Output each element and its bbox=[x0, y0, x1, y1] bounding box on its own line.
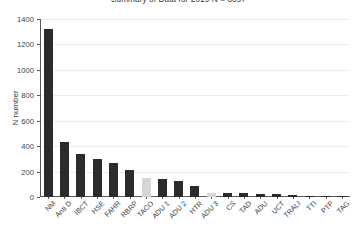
x-tick-label: CS bbox=[224, 199, 237, 212]
bar-htr[interactable] bbox=[190, 186, 199, 197]
bar-slot[interactable] bbox=[154, 19, 170, 197]
bar-anti-d[interactable] bbox=[60, 142, 69, 197]
bar-slot[interactable] bbox=[334, 19, 350, 197]
bar-adu-1[interactable] bbox=[158, 179, 167, 197]
x-tick-label: IBCT bbox=[72, 199, 90, 217]
y-tick-label: 200 bbox=[21, 167, 34, 176]
y-tick-label: 800 bbox=[21, 91, 34, 100]
bar-slot[interactable] bbox=[301, 19, 317, 197]
bar-slot[interactable] bbox=[122, 19, 138, 197]
x-tick-label: TTI bbox=[305, 199, 319, 213]
y-tick-label: 0 bbox=[30, 193, 34, 202]
bar-slot[interactable] bbox=[40, 19, 56, 197]
chart-title: Summary of Data for 2019 N = 3397 bbox=[0, 0, 357, 4]
x-tick-mark bbox=[113, 197, 114, 199]
x-tick-mark bbox=[97, 197, 98, 199]
bar-taco[interactable] bbox=[142, 178, 151, 197]
bar-slot[interactable] bbox=[73, 19, 89, 197]
bar-slot[interactable] bbox=[171, 19, 187, 197]
x-tick-mark bbox=[179, 197, 180, 199]
x-tick-mark bbox=[260, 197, 261, 199]
bar-fahr[interactable] bbox=[109, 163, 118, 197]
plot-area bbox=[40, 19, 350, 197]
bar-slot[interactable] bbox=[252, 19, 268, 197]
x-tick-mark bbox=[195, 197, 196, 199]
y-axis-ticks: 0200400600800100012001400 bbox=[0, 19, 36, 197]
y-tick-label: 400 bbox=[21, 142, 34, 151]
x-tick-mark bbox=[326, 197, 327, 199]
bar-slot[interactable] bbox=[268, 19, 284, 197]
x-tick-mark bbox=[342, 197, 343, 199]
x-tick-label: TAG bbox=[335, 199, 351, 215]
bar-slot[interactable] bbox=[105, 19, 121, 197]
y-tick-mark bbox=[37, 197, 40, 198]
x-tick-mark bbox=[146, 197, 147, 199]
x-tick-label: FAHR bbox=[103, 199, 123, 219]
bar-slot[interactable] bbox=[317, 19, 333, 197]
x-tick-label: PTP bbox=[319, 199, 335, 215]
bar-slot[interactable] bbox=[89, 19, 105, 197]
bar-slot[interactable] bbox=[203, 19, 219, 197]
x-tick-label: TAD bbox=[237, 199, 253, 215]
x-tick-mark bbox=[277, 197, 278, 199]
bar-slot[interactable] bbox=[219, 19, 235, 197]
y-tick-label: 1000 bbox=[17, 65, 34, 74]
bar-nm[interactable] bbox=[44, 29, 53, 197]
x-tick-label: ADU 1 bbox=[150, 199, 171, 220]
bar-adu-2[interactable] bbox=[174, 181, 183, 197]
x-tick-mark bbox=[64, 197, 65, 199]
bar-slot[interactable] bbox=[285, 19, 301, 197]
x-axis-labels: NMAnti DIBCTHSEFAHRRBRPTACOADU 1ADU 2HTR… bbox=[40, 199, 350, 237]
bar-slot[interactable] bbox=[187, 19, 203, 197]
x-tick-label: ADU 3 bbox=[199, 199, 220, 220]
x-tick-mark bbox=[293, 197, 294, 199]
x-tick-mark bbox=[130, 197, 131, 199]
x-tick-mark bbox=[162, 197, 163, 199]
bar-slot[interactable] bbox=[236, 19, 252, 197]
x-tick-mark bbox=[81, 197, 82, 199]
bar-slot[interactable] bbox=[56, 19, 72, 197]
x-tick-label: ADU 2 bbox=[167, 199, 188, 220]
x-tick-mark bbox=[211, 197, 212, 199]
bar-hse[interactable] bbox=[93, 159, 102, 197]
y-tick-label: 1400 bbox=[17, 15, 34, 24]
bar-slot[interactable] bbox=[138, 19, 154, 197]
x-tick-label: Anti D bbox=[54, 199, 74, 219]
x-tick-label: TRALI bbox=[281, 199, 302, 220]
bar-rbrp[interactable] bbox=[125, 170, 134, 197]
x-tick-mark bbox=[228, 197, 229, 199]
y-tick-label: 600 bbox=[21, 116, 34, 125]
y-tick-label: 1200 bbox=[17, 40, 34, 49]
bar-ibct[interactable] bbox=[76, 154, 85, 197]
x-tick-mark bbox=[48, 197, 49, 199]
bar-chart: Summary of Data for 2019 N = 3397 N numb… bbox=[0, 0, 357, 237]
x-tick-mark bbox=[309, 197, 310, 199]
x-tick-label: RBRP bbox=[119, 199, 139, 219]
bar-series bbox=[40, 19, 350, 197]
x-tick-mark bbox=[244, 197, 245, 199]
x-tick-label: ADU bbox=[253, 199, 270, 216]
